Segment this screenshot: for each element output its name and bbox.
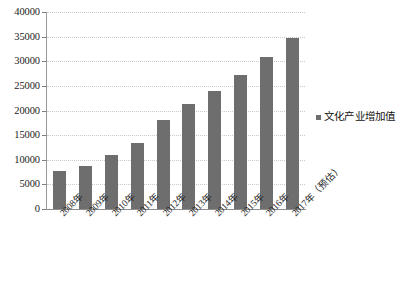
bar-chart: 0500010000150002000025000300003500040000…: [0, 0, 413, 287]
y-axis-tick-label: 30000: [14, 55, 40, 66]
y-axis-tick-label: 10000: [14, 154, 40, 165]
legend-label: 文化产业增加值: [324, 111, 395, 123]
chart-legend: 文化产业增加值: [316, 111, 395, 123]
bar: [286, 38, 299, 209]
bar: [234, 75, 247, 209]
x-axis-labels: 2008年2009年2010年2011年2012年2013年2014年2015年…: [47, 211, 377, 287]
bars-layer: [47, 12, 305, 209]
y-axis-tick-label: 15000: [14, 129, 40, 140]
y-axis-tick-label: 20000: [14, 105, 40, 116]
bar: [182, 104, 195, 209]
y-axis-tick-label: 35000: [14, 31, 40, 42]
bar: [260, 57, 273, 209]
y-axis-tick-label: 25000: [14, 80, 40, 91]
y-axis-tick-label: 0: [35, 203, 40, 214]
y-axis-tick-label: 40000: [14, 6, 40, 17]
y-axis-tick-label: 5000: [19, 178, 40, 189]
square-marker-icon: [316, 115, 321, 120]
bar: [208, 91, 221, 209]
